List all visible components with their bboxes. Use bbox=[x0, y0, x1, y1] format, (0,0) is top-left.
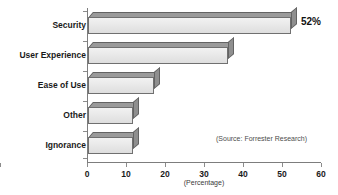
x-axis-tick-label-10: 10 bbox=[114, 169, 138, 179]
bar-front-face bbox=[88, 77, 154, 94]
y-axis-tick bbox=[83, 41, 87, 42]
x-axis-tick bbox=[165, 163, 166, 167]
x-axis-tick-label-30: 30 bbox=[192, 169, 216, 179]
bar-front-face bbox=[88, 107, 133, 124]
x-axis-tick-label-60: 60 bbox=[309, 169, 333, 179]
x-axis-tick-label-0: 0 bbox=[75, 169, 99, 179]
x-axis-tick bbox=[321, 163, 322, 167]
x-axis-tick bbox=[126, 163, 127, 167]
y-axis-tick bbox=[83, 131, 87, 132]
y-axis-tick bbox=[83, 11, 87, 12]
bar-side-face bbox=[154, 67, 160, 89]
value-label-security: 52% bbox=[301, 16, 321, 27]
bar-chart: Security User Experience Ease of Use Oth… bbox=[0, 0, 338, 195]
bar-front-face bbox=[88, 17, 291, 34]
bar-side-face bbox=[133, 127, 139, 149]
category-label-other: Other bbox=[2, 110, 86, 120]
x-axis-tick-label-40: 40 bbox=[231, 169, 255, 179]
x-axis-tick bbox=[0, 163, 1, 167]
x-axis-tick bbox=[243, 163, 244, 167]
y-axis-tick bbox=[83, 71, 87, 72]
category-label-user-experience: User Experience bbox=[2, 50, 86, 60]
source-note: (Source: Forrester Research) bbox=[216, 135, 307, 142]
y-axis-tick bbox=[83, 101, 87, 102]
x-axis-tick-label-50: 50 bbox=[270, 169, 294, 179]
category-label-security: Security bbox=[2, 20, 86, 30]
x-axis-tick bbox=[282, 163, 283, 167]
bar-front-face bbox=[88, 47, 228, 64]
bar-side-face bbox=[228, 37, 234, 59]
bar-front-face bbox=[88, 137, 133, 154]
bar-side-face bbox=[133, 97, 139, 119]
x-axis-tick bbox=[204, 163, 205, 167]
x-axis-tick-label-20: 20 bbox=[153, 169, 177, 179]
x-axis-tick bbox=[87, 163, 88, 167]
x-axis-title: (Percentage) bbox=[144, 179, 264, 186]
bar-side-face bbox=[291, 7, 297, 29]
category-label-ignorance: Ignorance bbox=[2, 140, 86, 150]
category-label-ease-of-use: Ease of Use bbox=[2, 80, 86, 90]
y-axis-tick bbox=[83, 158, 87, 159]
